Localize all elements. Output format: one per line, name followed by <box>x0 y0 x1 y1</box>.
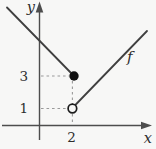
function-graph-figure: y x f 3 1 2 <box>0 0 156 149</box>
y-tick-label-3: 3 <box>19 68 28 84</box>
x-axis-label: x <box>144 130 152 146</box>
x-tick-label-2: 2 <box>67 129 76 145</box>
graph-canvas: y x f 3 1 2 <box>0 0 156 149</box>
closed-point-2-3 <box>69 71 78 80</box>
y-tick-label-1: 1 <box>19 100 28 116</box>
y-axis-label: y <box>26 0 36 15</box>
open-point-2-1 <box>68 104 77 113</box>
